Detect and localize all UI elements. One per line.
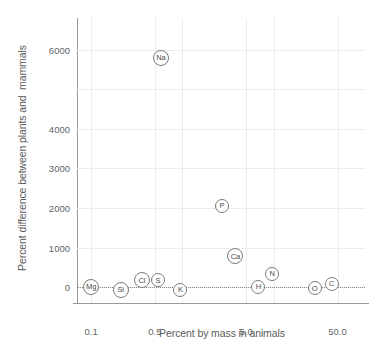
data-point-p: P xyxy=(215,199,229,213)
y-tick-label: 0 xyxy=(65,282,70,293)
gridline-horizontal xyxy=(77,248,365,249)
scatter-chart: Percent difference between plants and ma… xyxy=(0,0,376,354)
y-axis-line xyxy=(77,18,78,303)
gridline-horizontal xyxy=(77,168,365,169)
x-axis-label: Percent by mass in animals xyxy=(77,327,367,339)
plot-area: 010002000300040006000 0.10.55.050.0 MgSi… xyxy=(77,18,365,303)
gridline-vertical xyxy=(338,18,339,303)
gridline-horizontal xyxy=(77,50,365,51)
x-tick-label: 50.0 xyxy=(328,326,347,337)
data-point-na: Na xyxy=(153,50,169,66)
y-tick-label: 1000 xyxy=(49,242,70,253)
data-point-s: S xyxy=(151,273,165,287)
gridline-vertical xyxy=(91,18,92,303)
x-tick-label: 0.5 xyxy=(148,326,161,337)
data-point-ca: Ca xyxy=(227,248,243,264)
data-point-k: K xyxy=(173,283,187,297)
y-axis-label: Percent difference between plants and ma… xyxy=(14,28,30,288)
data-point-n: N xyxy=(265,267,279,281)
y-tick-label: 6000 xyxy=(49,44,70,55)
data-point-mg: Mg xyxy=(83,279,99,295)
x-tick-label: 5.0 xyxy=(240,326,253,337)
data-point-c: C xyxy=(325,277,339,291)
gridline-vertical xyxy=(182,18,183,303)
gridline-horizontal xyxy=(77,129,365,130)
data-point-cl: Cl xyxy=(134,272,150,288)
y-tick-label: 4000 xyxy=(49,123,70,134)
y-tick-label: 3000 xyxy=(49,163,70,174)
data-point-h: H xyxy=(251,280,265,294)
gridline-vertical xyxy=(274,18,275,303)
gridline-vertical xyxy=(246,18,247,303)
gridline-horizontal xyxy=(77,89,365,90)
data-point-si: Si xyxy=(113,282,129,298)
x-axis-line xyxy=(73,303,369,304)
y-tick-label: 2000 xyxy=(49,203,70,214)
data-point-o: O xyxy=(308,281,322,295)
x-tick-label: 0.1 xyxy=(84,326,97,337)
